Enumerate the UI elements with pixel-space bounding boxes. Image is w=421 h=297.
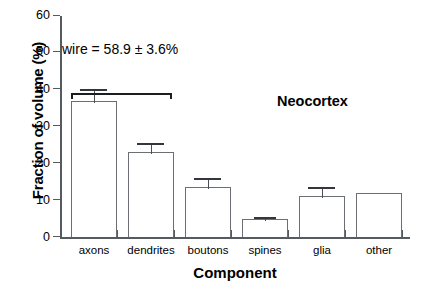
x-tick-label-dendrites: dendrites — [127, 244, 174, 256]
errorbar-cap-glia — [308, 187, 335, 189]
x-tick-label-other: other — [366, 244, 392, 256]
y-tick-label-10: 10 — [36, 193, 50, 207]
x-tick-label-spines: spines — [248, 244, 281, 256]
annotation-region-label: Neocortex — [277, 93, 348, 109]
x-tick-label-axons: axons — [79, 244, 110, 256]
y-tick-label-50: 50 — [36, 44, 50, 58]
y-tick-30: 30 — [53, 125, 60, 127]
x-axis-title: Component — [60, 264, 410, 281]
y-tick-0: 0 — [53, 236, 60, 238]
x-tick-10 — [345, 230, 346, 239]
errorbar-cap-dendrites — [137, 143, 164, 145]
y-tick-label-0: 0 — [43, 230, 50, 244]
y-tick-label-20: 20 — [36, 156, 50, 170]
errorbar-cap-boutons — [194, 178, 221, 180]
bar-axons — [71, 101, 117, 237]
y-tick-60: 60 — [53, 15, 60, 17]
errorbar-stem-glia — [322, 189, 323, 198]
bar-glia — [299, 196, 345, 237]
x-tick-label-glia: glia — [313, 244, 331, 256]
y-tick-label-40: 40 — [36, 82, 50, 96]
x-tick-label-boutons: boutons — [188, 244, 229, 256]
errorbar-stem-spines — [265, 219, 266, 221]
x-axis-line — [60, 237, 410, 239]
x-tick-2 — [117, 230, 118, 239]
y-tick-50: 50 — [53, 51, 60, 53]
x-tick-4 — [174, 230, 175, 239]
y-tick-40: 40 — [53, 88, 60, 90]
x-tick-8 — [288, 230, 289, 239]
y-tick-label-60: 60 — [36, 8, 50, 22]
errorbar-cap-spines — [254, 217, 276, 219]
chart-figure: Fraction of volume (%) 0 10 20 30 40 50 … — [0, 0, 421, 297]
y-tick-20: 20 — [53, 162, 60, 164]
bar-spines — [242, 219, 288, 237]
errorbar-stem-boutons — [208, 180, 209, 189]
bar-other — [356, 193, 402, 237]
y-tick-10: 10 — [53, 199, 60, 201]
bar-boutons — [185, 187, 231, 237]
x-tick-6 — [231, 230, 232, 239]
errorbar-stem-dendrites — [151, 145, 152, 154]
x-tick-0 — [60, 230, 61, 239]
bar-dendrites — [128, 152, 174, 237]
x-tick-12 — [402, 230, 403, 239]
span-bracket — [71, 93, 172, 99]
annotation-wire-fraction: wire = 58.9 ± 3.6% — [62, 41, 178, 57]
errorbar-cap-axons — [80, 89, 107, 91]
y-tick-label-30: 30 — [36, 119, 50, 133]
